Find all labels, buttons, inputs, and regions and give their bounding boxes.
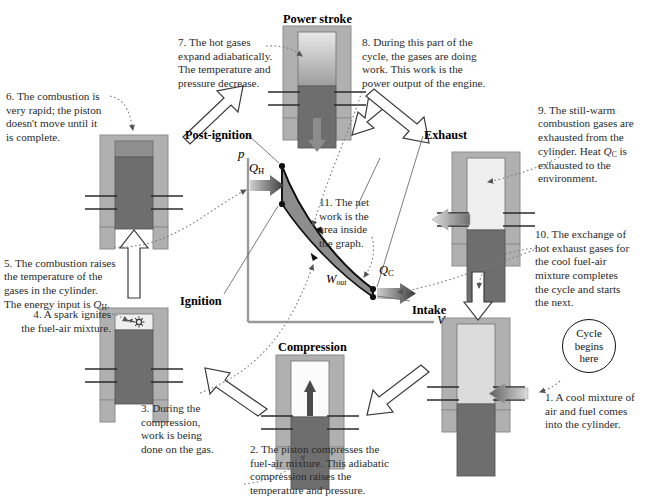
state-point-ignition (279, 201, 285, 207)
heat-in-symbol: Q (249, 161, 258, 175)
lower-adiabat-direction-arrow (311, 253, 318, 261)
note-exchange-of-gases: 10. The exchange of hot exhaust gases fo… (535, 228, 645, 310)
state-point-intake (370, 294, 376, 300)
gas-region-exhaust (467, 158, 505, 230)
heat-in-arrow (250, 175, 284, 196)
work-out-subscript: out (336, 278, 346, 287)
cycle-badge-line3: here (575, 352, 604, 365)
heat-in-subscript: H (258, 166, 264, 176)
note-net-work-area: 11. The net work is the area inside the … (319, 196, 391, 251)
note-combustion-rapid: 6. The combustion is very rapid; the pis… (6, 90, 126, 145)
gas-region-power-stroke (298, 32, 336, 86)
note-combustion-raises-temp: 5. The combustion raises the temperature… (4, 243, 132, 312)
piston-ignition (115, 330, 153, 404)
piston-intake (457, 404, 495, 476)
state-point-post-ignition (279, 163, 285, 169)
axis-label-pressure: p (238, 146, 245, 162)
stage-label-power-stroke: Power stroke (283, 12, 352, 27)
note-gases-doing-work: 8. During this part of the cycle, the ga… (362, 36, 517, 91)
stage-label-ignition: Ignition (180, 294, 222, 309)
work-out-symbol: W (326, 272, 336, 286)
stage-label-post-ignition: Post-ignition (185, 128, 252, 143)
work-out-label: Wout (326, 272, 346, 287)
stage-label-exhaust: Exhaust (424, 128, 467, 143)
heat-out-subscript: C (388, 268, 394, 278)
state-point-exhaust (370, 286, 376, 292)
axis-label-volume: V (437, 312, 445, 328)
piston-post-ignition (115, 157, 153, 229)
heat-out-symbol: Q (379, 263, 388, 277)
gas-region-intake (457, 324, 495, 404)
note-piston-compresses: 2. The piston compresses the fuel-air mi… (250, 443, 445, 498)
note-cool-mixture: 1. A cool mixture of air and fuel comes … (545, 391, 645, 432)
heat-out-arrow (377, 283, 416, 304)
note-work-done-on-gas: 3. During the compression, work is being… (141, 402, 236, 457)
note-spark-ignites: 4. A spark ignites the fuel-air mixture. (6, 308, 111, 335)
cycle-badge-line1: Cycle (575, 327, 604, 340)
heat-out-label: QC (379, 263, 394, 278)
heat-in-label: QH (249, 161, 264, 176)
cycle-begins-here-badge: Cycle begins here (562, 319, 616, 373)
stage-label-compression: Compression (278, 340, 347, 355)
otto-cycle-diagram: Power stroke Post-ignition Exhaust Ignit… (0, 0, 645, 498)
note-hot-gases-expand: 7. The hot gases expand adiabatically. T… (178, 36, 290, 91)
process-arrow-power-to-exhaust (352, 89, 429, 143)
note-still-warm-gases: 9. The still-warm combustion gases are e… (538, 90, 645, 186)
process-arrow-intake-to-compression (367, 365, 429, 415)
cycle-badge-line2: begins (575, 340, 604, 353)
note9-heat-symbol: Q (604, 145, 612, 157)
note5-suffix: . (107, 298, 110, 310)
